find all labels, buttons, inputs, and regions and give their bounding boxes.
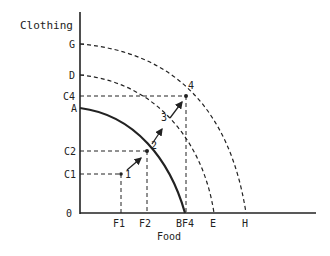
label-C2: C2 [64, 146, 76, 157]
label-H: H [242, 218, 248, 229]
label-F2: F2 [139, 218, 151, 229]
point-1-label: 1 [125, 169, 131, 180]
production-possibility-diagram: Clothing Food 0 G D C4 A C2 C1 F1 F2 BF4… [0, 0, 330, 256]
curve-GH [80, 44, 246, 213]
point-2-dot [145, 149, 149, 153]
label-E: E [210, 218, 216, 229]
label-F1: F1 [113, 218, 125, 229]
point-1-dot [119, 172, 123, 176]
y-axis-label: Clothing [20, 19, 73, 32]
x-axis-label: Food [157, 231, 181, 242]
label-D: D [69, 70, 75, 81]
label-C4: C4 [63, 91, 75, 102]
label-BF4: BF4 [176, 218, 194, 229]
origin-label: 0 [66, 208, 72, 219]
arrow-3-to-4 [170, 102, 182, 118]
label-A: A [71, 103, 77, 114]
point-4-dot [184, 94, 188, 98]
label-C1: C1 [64, 169, 76, 180]
point-2-label: 2 [151, 140, 157, 151]
point-4-label: 4 [188, 80, 194, 91]
curve-AB [80, 108, 185, 213]
point-3-label: 3 [161, 112, 167, 123]
label-G: G [69, 39, 75, 50]
